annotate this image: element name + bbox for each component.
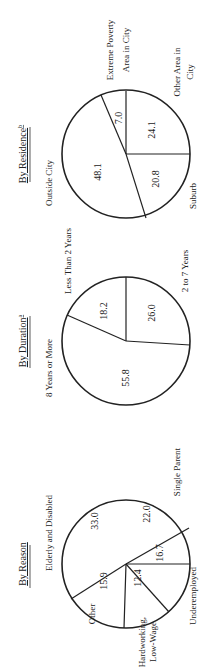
- chart-title: By Reason: [17, 542, 28, 586]
- label-8-years-or-more: 8 Years or More: [44, 339, 54, 397]
- label-underemployed: Underemployed: [188, 567, 198, 625]
- label-other: Other: [87, 604, 97, 625]
- label-other-area-in: Other Area in: [172, 47, 182, 96]
- label-outside-city: Outside City: [44, 160, 54, 206]
- value-hardworking: 12.4: [132, 569, 143, 587]
- label-single-parent: Single Parent: [172, 447, 182, 496]
- chart-title: By Durationa: [17, 314, 28, 367]
- value-suburb: 20.8: [150, 170, 161, 188]
- value-less-than-2-years: 18.2: [98, 302, 109, 320]
- label-area-in-city: Area in City: [121, 27, 131, 72]
- label-elderly: Elderly and Disabled: [44, 495, 54, 571]
- value-2-to-7-years: 26.0: [146, 304, 157, 322]
- value-extreme-poverty: 7.0: [113, 112, 124, 125]
- value-8-years-or-more: 55.8: [120, 369, 131, 387]
- label-hardworking: Hardworking,: [137, 617, 147, 667]
- label-suburb: Suburb: [188, 183, 198, 210]
- value-outside-city: 48.1: [92, 163, 103, 181]
- chart-by-duration: By Durationa 18.2 26.0 55.8 Less Than 2 …: [17, 228, 190, 405]
- label-less-than-2-years: Less Than 2 Years: [63, 228, 73, 294]
- label-2-to-7-years: 2 to 7 Years: [180, 249, 190, 292]
- value-other-area: 24.1: [146, 121, 157, 139]
- label-extreme-poverty: Extreme Poverty: [105, 19, 115, 80]
- value-single-parent: 22.0: [141, 505, 152, 523]
- value-other: 15.9: [98, 572, 109, 590]
- chart-by-reason: By Reason 33.0 22.0 16.7 12.4 15.9 Elder…: [17, 447, 198, 667]
- label-low-wage: Low-Wage: [148, 622, 158, 662]
- label-city: City: [185, 64, 195, 80]
- value-elderly: 33.0: [89, 512, 100, 530]
- chart-title: By Residenceb: [17, 125, 28, 183]
- chart-by-residence: By Residenceb 7.0 24.1 20.8 48.1 Extreme…: [17, 19, 198, 218]
- value-underemployed: 16.7: [154, 544, 165, 562]
- pie-charts-figure: By Reason 33.0 22.0 16.7 12.4 15.9 Elder…: [0, 0, 217, 667]
